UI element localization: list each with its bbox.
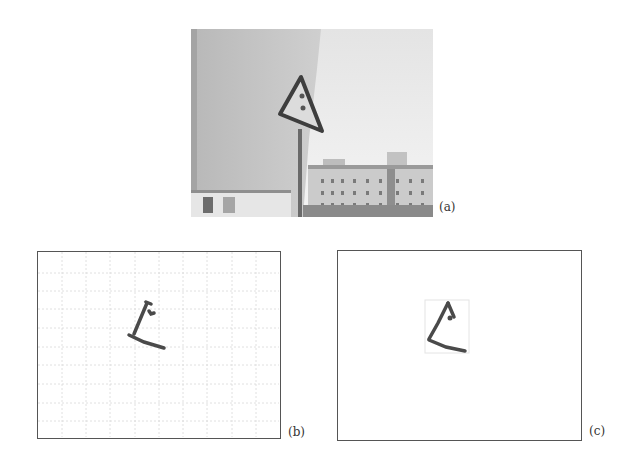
sign-edge-fragments — [429, 303, 465, 351]
panel-b-grid — [38, 252, 279, 437]
panel-b-label: (b) — [288, 425, 305, 439]
panel-c-label: (c) — [589, 424, 605, 438]
panel-c-frame — [337, 250, 582, 441]
panel-b-frame — [37, 251, 281, 439]
panel-a-label: (a) — [439, 200, 456, 214]
panel-a-photo — [191, 29, 433, 217]
